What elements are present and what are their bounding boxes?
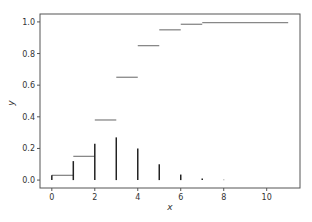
y-tick-label: 0.4 [22, 113, 35, 122]
y-tick-label: 0.0 [22, 176, 35, 185]
y-tick-label: 0.6 [22, 81, 35, 90]
y-axis-label: y [6, 100, 16, 107]
y-tick-label: 0.2 [22, 144, 35, 153]
x-tick-label: 8 [221, 193, 226, 202]
x-tick-label: 0 [49, 193, 54, 202]
y-tick-label: 0.8 [22, 50, 35, 59]
x-tick-label: 2 [92, 193, 97, 202]
x-tick-label: 4 [135, 193, 140, 202]
y-tick-label: 1.0 [22, 18, 35, 27]
x-axis-label: x [166, 202, 173, 212]
x-axis: 0246810 [49, 188, 272, 202]
chart: 0.00.20.40.60.81.0 0246810 x y [0, 0, 312, 222]
x-tick-label: 10 [262, 193, 272, 202]
x-tick-label: 6 [178, 193, 183, 202]
plot-area [40, 14, 300, 188]
y-axis: 0.00.20.40.60.81.0 [22, 18, 40, 185]
